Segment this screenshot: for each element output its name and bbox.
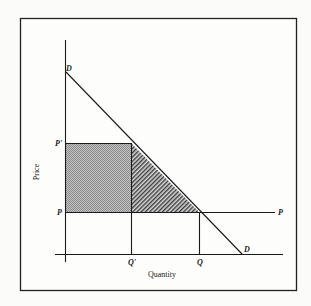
label-price-high: P' [55,139,63,148]
label-demand-bottom: D [243,245,250,254]
label-quantity-high: Q [197,258,203,267]
y-axis-title: Price [32,163,41,180]
x-axis-title: Quantity [148,270,176,279]
label-price-low-right: P [278,208,283,217]
label-quantity-low: Q' [128,258,137,267]
demand-diagram: D D P' P P Q' Q Quantity Price [0,0,311,306]
label-demand-top: D [65,64,72,73]
figure-frame [21,19,297,291]
shaded-rectangle-region [66,143,131,212]
label-price-low-left: P [57,208,62,217]
